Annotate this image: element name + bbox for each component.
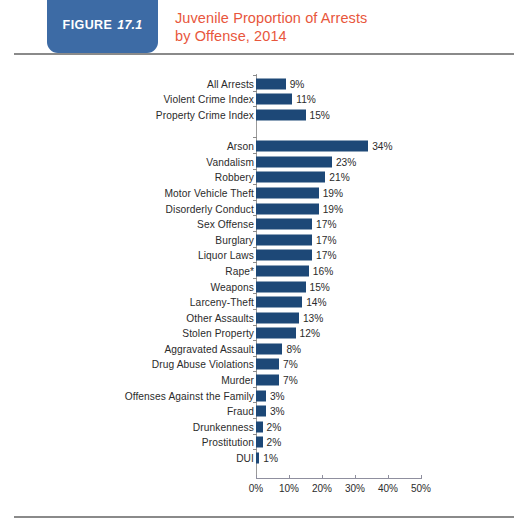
- figure-title-line-1: Juvenile Proportion of Arrests: [175, 10, 367, 26]
- bar-container: 11%: [256, 94, 316, 105]
- category-label: Prostitution: [202, 437, 254, 448]
- category-label: Burglary: [215, 234, 254, 245]
- bar-value-label: 17%: [316, 219, 336, 230]
- bar-container: 15%: [256, 109, 330, 120]
- bar-container: 12%: [256, 328, 320, 339]
- x-axis-line: [256, 478, 421, 479]
- bar-container: 9%: [256, 78, 304, 89]
- x-axis-tick: [322, 475, 323, 479]
- category-label: Property Crime Index: [156, 109, 254, 120]
- bar: [256, 94, 292, 105]
- y-axis-tick: [253, 247, 257, 248]
- y-axis-tick: [253, 434, 257, 435]
- category-label: Stolen Property: [182, 328, 254, 339]
- bar: [256, 219, 312, 230]
- y-axis-tick: [253, 215, 257, 216]
- bar: [256, 281, 306, 292]
- bar-container: 17%: [256, 234, 336, 245]
- header-divider: [14, 53, 514, 55]
- chart-bar-row: Disorderly Conduct19%: [0, 201, 527, 217]
- bar-container: 7%: [256, 375, 298, 386]
- y-axis-tick: [253, 75, 257, 76]
- chart-bar-row: Burglary17%: [0, 232, 527, 248]
- y-axis-tick: [253, 91, 257, 92]
- y-axis-tick: [253, 106, 257, 107]
- bar: [256, 390, 266, 401]
- bar: [256, 328, 296, 339]
- y-axis-tick: [253, 231, 257, 232]
- bar: [256, 109, 306, 120]
- y-axis-tick: [253, 184, 257, 185]
- y-axis-tick: [253, 356, 257, 357]
- bar-value-label: 9%: [290, 78, 305, 89]
- bar-value-label: 1%: [263, 453, 278, 464]
- bar-value-label: 7%: [283, 375, 298, 386]
- bar-value-label: 3%: [270, 390, 285, 401]
- x-axis-tick: [355, 475, 356, 479]
- x-axis-tick-label: 10%: [279, 483, 299, 494]
- category-label: Murder: [221, 375, 254, 386]
- chart-plot-area: All Arrests9%Violent Crime Index11%Prope…: [0, 76, 527, 466]
- y-axis-tick: [253, 293, 257, 294]
- y-axis-tick: [253, 137, 257, 138]
- bar: [256, 203, 319, 214]
- bar: [256, 265, 309, 276]
- x-axis-tick: [388, 475, 389, 479]
- bar-container: 3%: [256, 390, 285, 401]
- bar-value-label: 19%: [323, 187, 343, 198]
- bar-chart: All Arrests9%Violent Crime Index11%Prope…: [0, 66, 527, 496]
- bar-container: 34%: [256, 141, 393, 152]
- category-label: Disorderly Conduct: [166, 203, 254, 214]
- chart-bar-row: Murder7%: [0, 372, 527, 388]
- x-axis-tick-label: 20%: [312, 483, 332, 494]
- category-label: DUI: [236, 453, 254, 464]
- x-axis-tick-label: 40%: [378, 483, 398, 494]
- bar-value-label: 17%: [316, 250, 336, 261]
- bar: [256, 406, 266, 417]
- bar-value-label: 15%: [310, 109, 330, 120]
- category-label: Violent Crime Index: [163, 94, 254, 105]
- bar-container: 17%: [256, 250, 336, 261]
- bar-container: 2%: [256, 437, 281, 448]
- bar-value-label: 11%: [296, 94, 316, 105]
- chart-bar-row: Liquor Laws17%: [0, 248, 527, 264]
- category-label: Arson: [227, 141, 254, 152]
- bar-value-label: 17%: [316, 234, 336, 245]
- bar-container: 1%: [256, 453, 278, 464]
- figure-badge-word: FIGURE: [63, 18, 113, 32]
- y-axis-tick: [253, 418, 257, 419]
- chart-bar-row: Offenses Against the Family3%: [0, 388, 527, 404]
- bar-value-label: 8%: [286, 343, 301, 354]
- chart-bar-row: Aggravated Assault8%: [0, 341, 527, 357]
- bar-container: 15%: [256, 281, 330, 292]
- y-axis-tick: [253, 371, 257, 372]
- bar: [256, 187, 319, 198]
- y-axis-tick: [253, 402, 257, 403]
- bar-container: 19%: [256, 203, 343, 214]
- bar-container: 17%: [256, 219, 336, 230]
- bar-container: 21%: [256, 172, 350, 183]
- chart-bar-row: Motor Vehicle Theft19%: [0, 185, 527, 201]
- category-label: Drug Abuse Violations: [152, 359, 254, 370]
- bar-container: 2%: [256, 421, 281, 432]
- x-axis-tick-label: 0%: [249, 483, 263, 494]
- y-axis-tick: [253, 387, 257, 388]
- bar-container: 16%: [256, 265, 333, 276]
- bar-value-label: 16%: [313, 265, 333, 276]
- figure-header: FIGURE 17.1 Juvenile Proportion of Arres…: [0, 0, 527, 58]
- y-axis-tick: [253, 278, 257, 279]
- figure-title-line-2: by Offense, 2014: [175, 27, 367, 45]
- bar-value-label: 2%: [267, 437, 282, 448]
- bar: [256, 437, 263, 448]
- category-label: Sex Offense: [197, 219, 254, 230]
- bar: [256, 375, 279, 386]
- chart-bar-row: Drunkenness2%: [0, 419, 527, 435]
- y-axis-tick: [253, 200, 257, 201]
- category-label: Rape*: [225, 265, 254, 276]
- bar: [256, 141, 368, 152]
- bar-container: 19%: [256, 187, 343, 198]
- chart-bar-row: Other Assaults13%: [0, 310, 527, 326]
- bar-container: 3%: [256, 406, 285, 417]
- bar-container: 14%: [256, 297, 327, 308]
- bar: [256, 359, 279, 370]
